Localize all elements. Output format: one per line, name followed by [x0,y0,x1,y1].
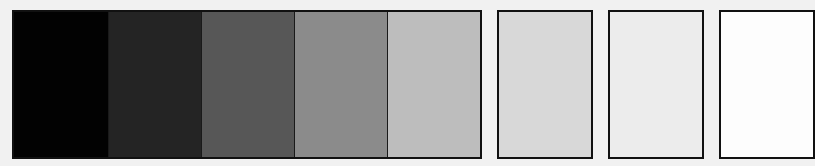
swatch-4 [295,12,388,157]
swatch-3 [202,12,295,157]
swatch-5 [388,12,480,157]
grouped-swatch-strip [12,10,482,159]
swatch-2 [109,12,202,157]
swatch-6 [497,10,593,159]
swatch-8 [719,10,815,159]
swatch-7 [608,10,704,159]
swatch-1 [14,12,109,157]
